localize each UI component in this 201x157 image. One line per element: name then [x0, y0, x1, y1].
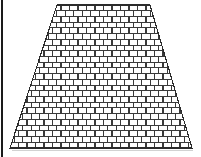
brick-course: [19, 131, 189, 137]
brick-course: [14, 137, 184, 143]
brick-wall-figure: [0, 0, 201, 157]
image-canvas: [0, 0, 201, 157]
